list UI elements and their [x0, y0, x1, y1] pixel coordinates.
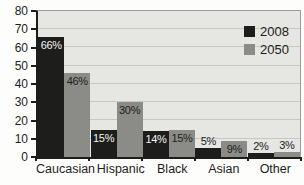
legend-label: 2008 — [260, 24, 289, 39]
y-tick — [31, 47, 36, 49]
bar-group-asian: 5%9% — [195, 11, 247, 157]
bar-group-caucasian: 66%46% — [38, 11, 90, 157]
bar-value-label: 2% — [253, 140, 268, 152]
y-tick-label: 30 — [0, 94, 28, 110]
bar-value-label: 15% — [171, 132, 192, 144]
y-tick — [31, 28, 36, 30]
legend-label: 2050 — [260, 42, 289, 57]
y-tick-label: 20 — [0, 113, 28, 129]
legend-row-2008: 2008 — [244, 24, 289, 39]
y-tick-label: 70 — [0, 21, 28, 37]
y-tick-label: 80 — [0, 3, 28, 19]
plot-area: 66%46%15%30%14%15%5%9%2%3% 20082050 — [36, 10, 301, 159]
x-tick — [247, 157, 249, 161]
bar-2008-hispanic: 15% — [91, 130, 117, 157]
y-tick-label: 0 — [0, 149, 28, 165]
bar-2050-other: 3% — [274, 152, 300, 158]
x-category-label-other: Other — [250, 162, 301, 176]
x-tick — [35, 157, 37, 161]
y-tick — [31, 138, 36, 140]
bar-value-label: 14% — [145, 133, 166, 145]
bar-group-hispanic: 15%30% — [90, 11, 142, 157]
legend-row-2050: 2050 — [244, 42, 289, 57]
x-tick — [194, 157, 196, 161]
bar-value-label: 3% — [279, 139, 294, 151]
bar-2008-other: 2% — [248, 153, 274, 157]
bar-value-label: 30% — [119, 104, 140, 116]
bar-2050-caucasian: 46% — [64, 73, 90, 157]
bar-2008-asian: 5% — [195, 148, 221, 157]
y-tick — [31, 120, 36, 122]
y-tick-label: 40 — [0, 76, 28, 92]
x-category-label-asian: Asian — [198, 162, 249, 176]
y-tick — [31, 65, 36, 67]
legend-swatch-icon — [244, 44, 255, 55]
bar-value-label: 66% — [41, 39, 62, 51]
bar-value-label: 5% — [201, 135, 216, 147]
legend: 20082050 — [244, 24, 289, 60]
y-tick — [31, 83, 36, 85]
bar-value-label: 9% — [227, 143, 242, 155]
bar-2050-asian: 9% — [221, 141, 247, 157]
y-tick — [31, 10, 36, 12]
bar-2050-black: 15% — [169, 130, 195, 157]
x-axis-labels: CaucasianHispanicBlackAsianOther — [36, 162, 301, 176]
bar-value-label: 46% — [67, 75, 88, 87]
bar-2008-black: 14% — [143, 131, 169, 157]
bar-2050-hispanic: 30% — [117, 102, 143, 157]
y-tick-label: 50 — [0, 58, 28, 74]
bar-value-label: 15% — [93, 132, 114, 144]
bar-group-black: 14%15% — [143, 11, 195, 157]
legend-swatch-icon — [244, 26, 255, 37]
bar-chart: 01020304050607080 66%46%15%30%14%15%5%9%… — [0, 0, 304, 185]
x-category-label-black: Black — [147, 162, 198, 176]
x-tick — [300, 157, 302, 161]
x-tick — [141, 157, 143, 161]
x-category-label-caucasian: Caucasian — [36, 162, 95, 176]
y-tick-label: 60 — [0, 40, 28, 56]
x-tick — [88, 157, 90, 161]
bar-2008-caucasian: 66% — [38, 37, 64, 158]
x-category-label-hispanic: Hispanic — [95, 162, 146, 176]
y-tick-label: 10 — [0, 131, 28, 147]
y-tick — [31, 101, 36, 103]
